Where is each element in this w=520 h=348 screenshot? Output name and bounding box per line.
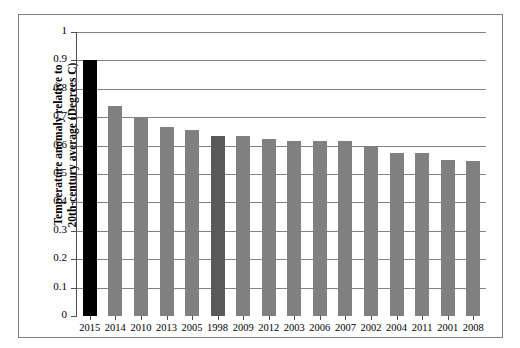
y-axis-tick-label: 0 (62, 308, 68, 320)
y-axis-tick: 0.7 (71, 117, 77, 118)
x-axis-tick-mark (345, 316, 346, 320)
y-axis-tick-mark (71, 32, 77, 33)
y-axis-tick-mark (71, 288, 77, 289)
y-axis-tick-label: 0.3 (53, 223, 67, 235)
y-axis-tick: 0.4 (71, 202, 77, 203)
x-axis-tick-mark (269, 316, 270, 320)
bar[interactable] (185, 130, 199, 316)
y-axis-tick-mark (71, 117, 77, 118)
y-axis-tick-mark (71, 174, 77, 175)
y-axis-tick: 0.1 (71, 288, 77, 289)
y-axis-tick-label: 0.8 (53, 81, 67, 93)
x-axis-tick-mark (294, 316, 295, 320)
bar[interactable] (415, 153, 429, 316)
y-axis-tick-label: 1 (62, 24, 68, 36)
bar[interactable] (390, 153, 404, 316)
y-axis-tick-mark (71, 146, 77, 147)
plot-area (77, 32, 486, 316)
bar[interactable] (236, 136, 250, 316)
x-axis-tick-mark (141, 316, 142, 320)
x-axis-tick-mark (473, 316, 474, 320)
x-axis-tick-label: 2008 (458, 322, 488, 333)
x-axis-tick-mark (192, 316, 193, 320)
y-axis-tick: 0.9 (71, 60, 77, 61)
x-axis-tick-mark (243, 316, 244, 320)
x-axis-tick-mark (115, 316, 116, 320)
y-axis-tick-mark (71, 259, 77, 260)
x-axis-ticks (77, 316, 486, 321)
x-axis-tick-mark (371, 316, 372, 320)
y-axis-tick-label: 0.1 (53, 280, 67, 292)
y-axis-tick-mark (71, 202, 77, 203)
y-axis-tick-label: 0.2 (53, 251, 67, 263)
y-axis-tick: 0.8 (71, 89, 77, 90)
y-axis-tick-label: 0.7 (53, 109, 67, 121)
x-axis-tick-mark (218, 316, 219, 320)
x-axis-tick-mark (167, 316, 168, 320)
bar[interactable] (83, 60, 97, 316)
y-axis-tick-label: 0.6 (53, 138, 67, 150)
x-axis-tick-mark (320, 316, 321, 320)
bar[interactable] (287, 141, 301, 316)
x-axis-tick-mark (422, 316, 423, 320)
y-axis-tick-mark (71, 89, 77, 90)
bar[interactable] (211, 136, 225, 316)
y-axis-tick: 1 (71, 32, 77, 33)
bar[interactable] (466, 161, 480, 316)
y-axis-tick-label: 0.9 (53, 52, 67, 64)
bar[interactable] (441, 160, 455, 316)
y-axis-tick: 0.6 (71, 146, 77, 147)
bar[interactable] (262, 139, 276, 317)
y-axis-tick: 0.2 (71, 259, 77, 260)
bar[interactable] (364, 146, 378, 316)
bar-series (77, 32, 486, 316)
chart-frame: Temperature anomaly relative to 20th-cen… (18, 14, 503, 338)
y-axis-tick-label: 0.5 (53, 166, 67, 178)
y-axis-tick-label: 0.4 (53, 194, 67, 206)
bar[interactable] (338, 141, 352, 316)
x-axis-tick-mark (448, 316, 449, 320)
x-axis-tick-labels: 2015201420102013200519982009201220032006… (77, 322, 486, 338)
figure: Temperature anomaly relative to 20th-cen… (0, 0, 520, 348)
bar[interactable] (134, 117, 148, 316)
y-axis-tick: 0.5 (71, 174, 77, 175)
bar[interactable] (313, 141, 327, 316)
y-axis-tick: 0.3 (71, 231, 77, 232)
x-axis-tick-mark (90, 316, 91, 320)
y-axis-tick-mark (71, 60, 77, 61)
bar[interactable] (160, 127, 174, 316)
x-axis-tick-mark (397, 316, 398, 320)
bar[interactable] (108, 106, 122, 316)
y-axis-tick-mark (71, 231, 77, 232)
